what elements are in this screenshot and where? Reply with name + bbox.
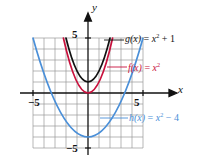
y-axis-tick-5: 5	[72, 29, 78, 40]
x-axis-label: x	[178, 84, 183, 95]
y-axis-label: y	[92, 2, 97, 13]
graph-figure: g(x) = x2 + 1 f(x) = x2 h(x) = x2 − 4 5 …	[0, 0, 205, 165]
label-leader-lines	[100, 40, 128, 118]
x-axis-tick-minus-5: −5	[28, 97, 40, 108]
graph-canvas	[0, 0, 205, 165]
curve-label-f: f(x) = x2	[128, 62, 160, 73]
curve-label-h: h(x) = x2 − 4	[129, 112, 179, 123]
x-axis-tick-5: 5	[134, 97, 140, 108]
y-axis-tick-minus-5: −5	[66, 143, 78, 154]
curve-label-g: g(x) = x2 + 1	[125, 33, 175, 44]
